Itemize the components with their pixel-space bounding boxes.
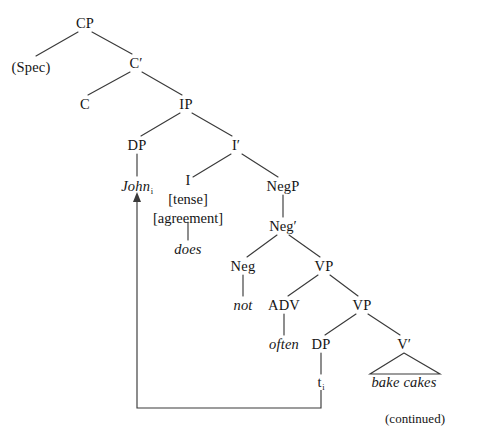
terminal-does: does xyxy=(174,241,201,257)
terminal-trace: ti xyxy=(318,374,325,390)
node-i-head: I xyxy=(153,171,223,190)
node-cbar: C′ xyxy=(130,55,143,71)
branch-vp-vp xyxy=(330,275,358,296)
branch-cbar-c xyxy=(88,72,130,95)
node-vp-upper: VP xyxy=(315,258,334,274)
terminal-john-text: John xyxy=(121,178,150,194)
branch-vplower-dp xyxy=(325,314,356,335)
branch-ip-dp xyxy=(141,113,180,136)
triangle-bake-cakes xyxy=(370,353,440,374)
terminal-often: often xyxy=(269,336,299,352)
node-ibar: I′ xyxy=(232,137,240,153)
node-cp: CP xyxy=(76,15,94,31)
branch-negbar-vp xyxy=(289,235,320,257)
branch-negbar-neg xyxy=(247,235,277,257)
node-neg: Neg xyxy=(231,258,256,274)
terminal-not: not xyxy=(233,297,252,313)
node-i-agreement: [agreement] xyxy=(153,208,223,227)
node-adv: ADV xyxy=(268,297,300,313)
terminal-trace-text: t xyxy=(318,374,322,390)
branch-ibar-negp xyxy=(242,154,278,177)
branch-cp-cbar xyxy=(92,32,132,54)
branch-cp-spec xyxy=(36,32,78,56)
node-negp: NegP xyxy=(266,178,299,194)
node-ip: IP xyxy=(179,96,192,112)
branch-cbar-ip xyxy=(142,72,182,95)
continued-note: (continued) xyxy=(385,411,445,427)
node-vbar: V′ xyxy=(397,336,411,352)
node-negbar: Neg′ xyxy=(269,218,296,234)
node-vp-lower: VP xyxy=(353,297,372,313)
terminal-trace-subscript: i xyxy=(322,382,325,392)
terminal-bake-cakes: bake cakes xyxy=(371,374,436,390)
branch-vp-adv xyxy=(288,275,318,296)
branch-ip-ibar xyxy=(192,113,232,136)
branch-vplower-vbar xyxy=(368,314,400,335)
node-dp-subject: DP xyxy=(128,137,147,153)
node-dp-object: DP xyxy=(312,336,331,352)
node-spec: (Spec) xyxy=(11,59,50,75)
terminal-john: Johni xyxy=(121,178,153,194)
node-c: C xyxy=(80,96,90,112)
node-i-tense: [tense] xyxy=(153,190,223,209)
node-i-head-stack: I [tense] [agreement] xyxy=(153,171,223,228)
